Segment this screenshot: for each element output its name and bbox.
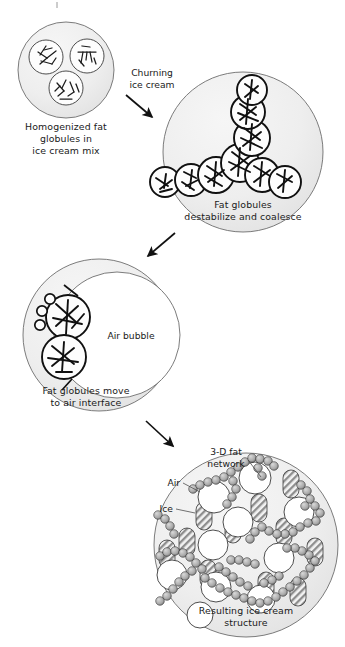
fat-globule xyxy=(49,71,83,105)
figure-canvas: Homogenized fat globules in ice cream mi… xyxy=(0,0,345,647)
arrow-1-label-line-2: ice cream xyxy=(129,79,174,90)
panel-2: Fat globules destabilize and coalesce xyxy=(150,72,323,232)
panel-2-caption-line-1: Fat globules xyxy=(214,199,272,210)
arrow-3-shaft xyxy=(146,421,173,446)
ice-label: Ice xyxy=(160,503,174,514)
panel-4-caption-line-1: Resulting ice cream xyxy=(199,605,293,616)
panel-2-caption-line-2: destabilize and coalesce xyxy=(184,211,301,222)
ice-cream-structure-diagram: Homogenized fat globules in ice cream mi… xyxy=(0,0,345,647)
arrow-1-label-line-1: Churning xyxy=(131,67,173,78)
air-label: Air xyxy=(167,477,180,488)
panel-1-caption-line-2: globules in xyxy=(40,133,92,144)
panel-3: Air bubble Fat globules move to air inte… xyxy=(23,259,180,411)
fat-network-label-line-1: 3-D fat xyxy=(210,446,242,457)
panel-4-caption-line-2: structure xyxy=(224,617,268,628)
arrow-1: Churning ice cream xyxy=(126,67,175,117)
arrow-2-shaft xyxy=(148,233,175,256)
panel-1: Homogenized fat globules in ice cream mi… xyxy=(18,22,114,156)
panel-4: 3-D fat network Air Ice Resulting ice cr… xyxy=(154,446,338,637)
fat-globule xyxy=(70,39,104,73)
arrow-2 xyxy=(148,233,175,256)
arrow-1-shaft xyxy=(126,95,152,117)
panel-3-caption-line-1: Fat globules move xyxy=(42,385,129,396)
fat-globule xyxy=(29,40,63,74)
panel-1-caption-line-3: ice cream mix xyxy=(32,145,100,156)
arrow-3 xyxy=(146,421,173,446)
air-bubble-label: Air bubble xyxy=(107,330,154,341)
fat-network-label-line-2: network xyxy=(207,458,245,469)
panel-3-caption-line-2: to air interface xyxy=(51,397,122,408)
panel-1-caption-line-1: Homogenized fat xyxy=(25,121,107,132)
